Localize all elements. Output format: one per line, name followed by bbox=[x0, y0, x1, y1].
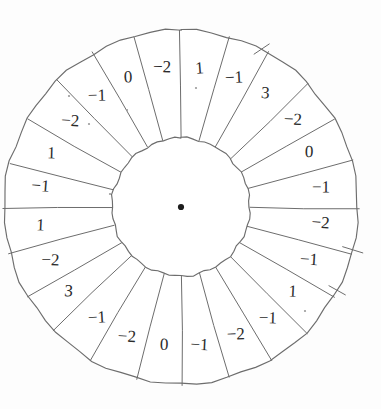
paper-speck bbox=[126, 109, 128, 111]
sector-label: 1 bbox=[195, 58, 205, 78]
sector-label: 1 bbox=[47, 143, 56, 162]
sector-label: −1 bbox=[190, 335, 209, 355]
wheel-figure: 1−13−20−1−2−11−1−2−10−2−13−21−11−2−10−2 bbox=[0, 0, 381, 409]
sector-label: 1 bbox=[36, 215, 45, 234]
sector-label: 3 bbox=[261, 83, 271, 103]
paper-speck bbox=[304, 310, 306, 312]
sector-label: −1 bbox=[312, 177, 330, 196]
wheel-svg: 1−13−20−1−2−11−1−2−10−2−13−21−11−2−10−2 bbox=[0, 0, 381, 409]
paper-speck bbox=[88, 123, 90, 125]
sector-label: −2 bbox=[153, 57, 171, 76]
sector-label: −2 bbox=[117, 326, 136, 346]
sector-label: −1 bbox=[224, 67, 243, 87]
sector-label: −2 bbox=[61, 111, 80, 131]
sector-label: −2 bbox=[284, 109, 303, 129]
paper-speck bbox=[68, 95, 70, 97]
sector-label: 0 bbox=[160, 335, 169, 354]
sector-label: −2 bbox=[41, 250, 60, 270]
sector-label: 0 bbox=[305, 142, 314, 161]
sector-label: −1 bbox=[87, 307, 106, 327]
sector-label: 0 bbox=[123, 67, 132, 86]
paper-speck bbox=[109, 193, 111, 195]
sector-label: 3 bbox=[64, 281, 74, 301]
sector-label: −1 bbox=[31, 175, 50, 195]
sector-label: −1 bbox=[259, 308, 278, 327]
paper-speck bbox=[195, 87, 197, 89]
center-dot bbox=[178, 204, 184, 210]
sector-label: −1 bbox=[88, 85, 107, 104]
sector-label: −1 bbox=[300, 249, 319, 269]
sector-label: 1 bbox=[288, 281, 297, 300]
sector-label: −2 bbox=[311, 212, 330, 232]
sector-label: −2 bbox=[226, 324, 245, 344]
